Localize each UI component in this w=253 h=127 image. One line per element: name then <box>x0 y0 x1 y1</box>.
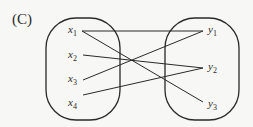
mapping-lines <box>82 31 203 102</box>
arrow-x3-y1 <box>83 31 203 80</box>
codomain-set-oval <box>165 18 239 120</box>
element-y3: y3 <box>207 97 217 112</box>
element-y2: y2 <box>207 60 217 75</box>
element-x1: x1 <box>67 23 77 38</box>
element-y1: y1 <box>207 23 217 38</box>
element-x4: x4 <box>67 96 77 111</box>
element-x3: x3 <box>67 72 77 87</box>
option-label: (C) <box>12 11 32 28</box>
mapping-diagram: (C) x1 x2 x3 x4 y1 y2 y3 <box>0 0 253 127</box>
arrow-x2-y2 <box>83 55 203 68</box>
element-x2: x2 <box>67 48 77 63</box>
